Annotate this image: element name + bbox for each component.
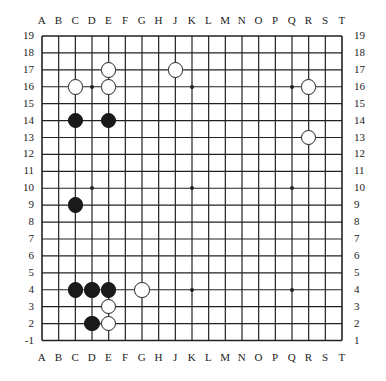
column-label-top: N — [234, 15, 250, 26]
column-label-bottom: H — [151, 352, 167, 363]
column-label-bottom: M — [217, 352, 233, 363]
row-label-right: 14 — [354, 115, 372, 126]
row-label-left: 14 — [16, 115, 34, 126]
column-label-bottom: A — [34, 352, 50, 363]
white-stone-E17 — [101, 62, 117, 78]
column-label-bottom: F — [117, 352, 133, 363]
row-label-right: 9 — [354, 199, 372, 210]
white-stone-E16 — [101, 79, 117, 95]
column-label-bottom: R — [301, 352, 317, 363]
row-label-right: 11 — [354, 165, 372, 176]
white-stone-J17 — [168, 62, 184, 78]
row-label-left: 10 — [16, 182, 34, 193]
row-label-left: 5 — [16, 267, 34, 278]
column-label-bottom: K — [184, 352, 200, 363]
board-grid — [0, 0, 386, 381]
row-label-left: 4 — [16, 284, 34, 295]
column-label-top: M — [217, 15, 233, 26]
star-point — [90, 85, 94, 89]
column-label-top: T — [334, 15, 350, 26]
column-label-top: C — [67, 15, 83, 26]
row-label-left: 19 — [16, 30, 34, 41]
row-label-right: 12 — [354, 148, 372, 159]
column-label-bottom: E — [101, 352, 117, 363]
column-label-top: K — [184, 15, 200, 26]
column-label-bottom: S — [317, 352, 333, 363]
column-label-top: E — [101, 15, 117, 26]
star-point — [190, 288, 194, 292]
column-label-top: L — [201, 15, 217, 26]
white-stone-G4 — [134, 282, 150, 298]
column-label-bottom: J — [167, 352, 183, 363]
column-label-top: G — [134, 15, 150, 26]
row-label-right: 13 — [354, 132, 372, 143]
row-label-right: 1 — [354, 335, 372, 346]
row-label-left: 9 — [16, 199, 34, 210]
row-label-right: 8 — [354, 216, 372, 227]
column-label-top: B — [51, 15, 67, 26]
white-stone-R16 — [301, 79, 317, 95]
row-label-right: 10 — [354, 182, 372, 193]
go-board: AABBCCDDEEFFGGHHJJKKLLMMNNOOPPQQRRSSTT19… — [0, 0, 386, 381]
column-label-bottom: B — [51, 352, 67, 363]
black-stone-E4 — [101, 282, 117, 298]
row-label-right: 7 — [354, 233, 372, 244]
row-label-right: 19 — [354, 30, 372, 41]
star-point — [290, 85, 294, 89]
row-label-left: 13 — [16, 132, 34, 143]
row-label-right: 18 — [354, 47, 372, 58]
column-label-top: A — [34, 15, 50, 26]
row-label-right: 16 — [354, 81, 372, 92]
column-label-top: Q — [284, 15, 300, 26]
row-label-left: 16 — [16, 81, 34, 92]
column-label-bottom: T — [334, 352, 350, 363]
column-label-bottom: C — [67, 352, 83, 363]
column-label-bottom: P — [267, 352, 283, 363]
star-point — [290, 288, 294, 292]
row-label-right: 2 — [354, 318, 372, 329]
column-label-bottom: D — [84, 352, 100, 363]
column-label-bottom: O — [251, 352, 267, 363]
column-label-top: R — [301, 15, 317, 26]
row-label-right: 17 — [354, 64, 372, 75]
column-label-bottom: Q — [284, 352, 300, 363]
row-label-left: -1 — [16, 335, 34, 346]
black-stone-D4 — [84, 282, 100, 298]
row-label-right: 6 — [354, 250, 372, 261]
row-label-left: 15 — [16, 98, 34, 109]
row-label-left: 12 — [16, 148, 34, 159]
column-label-bottom: L — [201, 352, 217, 363]
row-label-left: 17 — [16, 64, 34, 75]
row-label-right: 4 — [354, 284, 372, 295]
row-label-left: 7 — [16, 233, 34, 244]
row-label-left: 3 — [16, 301, 34, 312]
row-label-right: 15 — [354, 98, 372, 109]
star-point — [190, 85, 194, 89]
black-stone-C4 — [68, 282, 84, 298]
column-label-top: H — [151, 15, 167, 26]
black-stone-D2 — [84, 316, 100, 332]
column-label-top: S — [317, 15, 333, 26]
column-label-top: J — [167, 15, 183, 26]
column-label-top: O — [251, 15, 267, 26]
row-label-left: 6 — [16, 250, 34, 261]
column-label-top: F — [117, 15, 133, 26]
row-label-left: 2 — [16, 318, 34, 329]
column-label-bottom: N — [234, 352, 250, 363]
column-label-top: P — [267, 15, 283, 26]
column-label-bottom: G — [134, 352, 150, 363]
row-label-right: 3 — [354, 301, 372, 312]
row-label-left: 11 — [16, 165, 34, 176]
row-label-left: 8 — [16, 216, 34, 227]
row-label-right: 5 — [354, 267, 372, 278]
white-stone-C16 — [68, 79, 84, 95]
row-label-left: 18 — [16, 47, 34, 58]
column-label-top: D — [84, 15, 100, 26]
black-stone-C9 — [68, 197, 84, 213]
